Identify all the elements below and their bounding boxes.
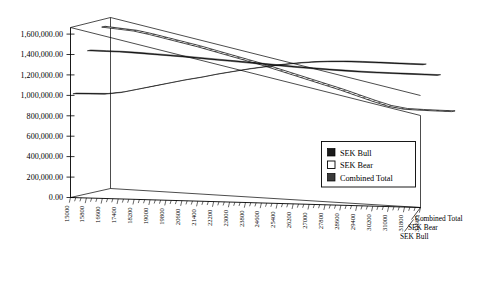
legend-label-sek-bear[interactable]: SEK Bear xyxy=(340,161,373,170)
x-tick xyxy=(345,205,346,209)
x-tick xyxy=(186,201,187,205)
x-tick xyxy=(308,204,309,209)
x-tick xyxy=(212,202,213,207)
series-ribbon-sek-bull xyxy=(73,61,426,94)
x-tick xyxy=(106,199,107,203)
x-tick xyxy=(191,201,192,205)
x-tick xyxy=(181,201,182,206)
data-series-layer xyxy=(73,26,455,111)
x-tick xyxy=(133,199,134,204)
x-tick xyxy=(138,199,139,203)
x-tick xyxy=(85,198,86,203)
frame-floor-left-edge xyxy=(71,189,111,198)
x-tick xyxy=(149,200,150,205)
chart-canvas: 0.00 200,000.00 400,000.00 600,000.00 80… xyxy=(0,0,501,282)
x-tick xyxy=(202,201,203,205)
x-tick xyxy=(234,202,235,206)
x-tick xyxy=(403,207,404,212)
x-tick xyxy=(250,203,251,207)
x-tick xyxy=(372,206,373,211)
x-tick xyxy=(324,205,325,210)
legend-swatch-sek-bull xyxy=(328,149,336,157)
series-ribbon-sek-bear xyxy=(102,26,455,111)
x-tick xyxy=(329,205,330,209)
x-tick-label: 23800 xyxy=(238,210,245,227)
x-tick xyxy=(69,198,70,203)
x-tick xyxy=(91,198,92,202)
x-tick xyxy=(144,200,145,204)
x-tick-label: 25400 xyxy=(269,211,276,228)
y-axis-label: 200,000.00 xyxy=(27,173,63,182)
frame-floor-back-edge xyxy=(111,189,421,208)
x-tick xyxy=(313,204,314,208)
x-tick xyxy=(80,198,81,202)
x-tick-label: 20600 xyxy=(174,208,181,225)
x-tick-label: 31000 xyxy=(381,214,388,231)
x-tick xyxy=(377,206,378,210)
x-tick xyxy=(112,199,113,203)
y-axis-label: 800,000.00 xyxy=(27,112,63,121)
y-axis-label: 1,200,000.00 xyxy=(21,71,64,80)
x-tick xyxy=(281,204,282,208)
x-tick xyxy=(303,204,304,208)
x-tick xyxy=(197,201,198,206)
x-tick xyxy=(207,201,208,205)
x-tick xyxy=(218,202,219,206)
x-tick xyxy=(319,205,320,209)
x-tick xyxy=(260,203,261,208)
depth-axis-label-sek-bull: SEK Bull xyxy=(400,232,429,241)
x-tick-label: 22200 xyxy=(206,209,213,226)
x-tick xyxy=(340,205,341,210)
x-tick xyxy=(266,203,267,207)
legend-label-combined-total[interactable]: Combined Total xyxy=(340,174,393,183)
chart-legend[interactable]: SEK Bull SEK Bear Combined Total xyxy=(322,142,416,188)
x-tick xyxy=(228,202,229,207)
x-tick-label: 23000 xyxy=(222,209,229,226)
x-tick-label: 30200 xyxy=(365,213,372,230)
x-tick-label: 24600 xyxy=(253,210,260,227)
x-tick xyxy=(393,207,394,211)
x-tick-label: 16600 xyxy=(94,206,101,223)
x-tick xyxy=(170,200,171,204)
y-axis-label: 1,400,000.00 xyxy=(21,50,64,59)
x-tick-label: 26200 xyxy=(285,211,292,228)
x-tick xyxy=(356,206,357,211)
x-tick xyxy=(414,207,415,211)
depth-axis-label-combined-total: Combined Total xyxy=(415,214,463,223)
x-tick xyxy=(398,207,399,211)
x-tick xyxy=(122,199,123,203)
x-tick xyxy=(292,204,293,209)
x-tick xyxy=(117,199,118,204)
x-tick-label: 15000 xyxy=(63,205,70,222)
x-tick xyxy=(297,204,298,208)
x-tick xyxy=(154,200,155,204)
x-tick xyxy=(350,206,351,210)
x-tick xyxy=(165,200,166,205)
x-tick-label: 31800 xyxy=(397,214,404,231)
y-axis-label: 1,600,000.00 xyxy=(21,30,64,39)
frame-top-back-edge xyxy=(111,18,421,96)
x-tick xyxy=(366,206,367,210)
x-tick xyxy=(159,200,160,204)
x-tick xyxy=(101,198,102,203)
x-axis: 1500015800166001740018200190001980020600… xyxy=(63,198,421,232)
x-tick xyxy=(271,203,272,207)
y-axis-label: 600,000.00 xyxy=(27,132,63,141)
x-tick-label: 18200 xyxy=(126,207,133,224)
x-tick-label: 15800 xyxy=(78,205,85,222)
x-tick xyxy=(287,204,288,208)
x-tick xyxy=(175,201,176,205)
legend-swatch-sek-bear xyxy=(328,161,336,169)
x-tick-label: 28600 xyxy=(333,213,340,230)
y-axis-label: 0.00 xyxy=(49,193,63,202)
legend-label-sek-bull[interactable]: SEK Bull xyxy=(340,149,372,158)
x-tick-label: 27800 xyxy=(317,212,324,229)
depth-axis: Combined Total SEK Bear SEK Bull xyxy=(400,208,463,241)
x-tick xyxy=(239,202,240,206)
x-tick-group xyxy=(69,198,420,213)
depth-axis-label-sek-bear: SEK Bear xyxy=(408,223,438,232)
frame-top-left-edge xyxy=(71,18,111,28)
x-tick xyxy=(382,206,383,210)
x-tick xyxy=(96,198,97,202)
x-tick xyxy=(223,202,224,206)
